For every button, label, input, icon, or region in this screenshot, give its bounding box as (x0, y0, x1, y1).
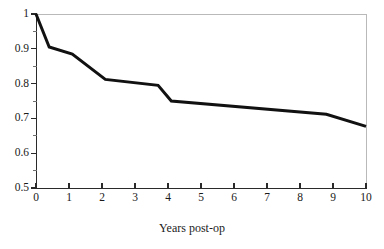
y-tick-label: 0.9 (0, 43, 29, 55)
x-tick-label: 4 (153, 192, 183, 204)
y-minor-tick (33, 66, 37, 67)
y-tick (31, 13, 37, 14)
x-tick-label: 5 (186, 192, 216, 204)
y-tick-label: 0.6 (0, 147, 29, 159)
x-tick-label: 8 (285, 192, 315, 204)
x-tick (365, 183, 366, 189)
x-tick (167, 183, 168, 189)
plot-frame-top (36, 14, 367, 15)
x-tick (134, 183, 135, 189)
x-tick (266, 183, 267, 189)
plot-area (36, 14, 366, 188)
survival-curve-figure: 0.50.60.70.80.91 012345678910 Years post… (0, 0, 384, 249)
x-tick (68, 183, 69, 189)
y-minor-tick (33, 170, 37, 171)
y-tick-label: 1 (0, 8, 29, 20)
x-axis-title: Years post-op (0, 221, 384, 236)
x-tick (233, 183, 234, 189)
x-tick-label: 3 (120, 192, 150, 204)
x-tick-label: 7 (252, 192, 282, 204)
x-tick-label: 10 (351, 192, 381, 204)
plot-frame-right (366, 14, 367, 189)
y-tick-label: 0.8 (0, 78, 29, 90)
x-tick (35, 183, 36, 189)
x-tick (200, 183, 201, 189)
x-tick-label: 6 (219, 192, 249, 204)
x-tick (332, 183, 333, 189)
x-tick-label: 0 (21, 192, 51, 204)
y-tick (31, 48, 37, 49)
x-tick (101, 183, 102, 189)
y-minor-tick (33, 135, 37, 136)
y-minor-tick (33, 101, 37, 102)
y-tick-label: 0.7 (0, 112, 29, 124)
y-tick (31, 83, 37, 84)
y-tick (31, 153, 37, 154)
x-tick-label: 2 (87, 192, 117, 204)
x-tick-label: 1 (54, 192, 84, 204)
y-tick (31, 118, 37, 119)
x-tick (299, 183, 300, 189)
x-tick-label: 9 (318, 192, 348, 204)
y-minor-tick (33, 31, 37, 32)
